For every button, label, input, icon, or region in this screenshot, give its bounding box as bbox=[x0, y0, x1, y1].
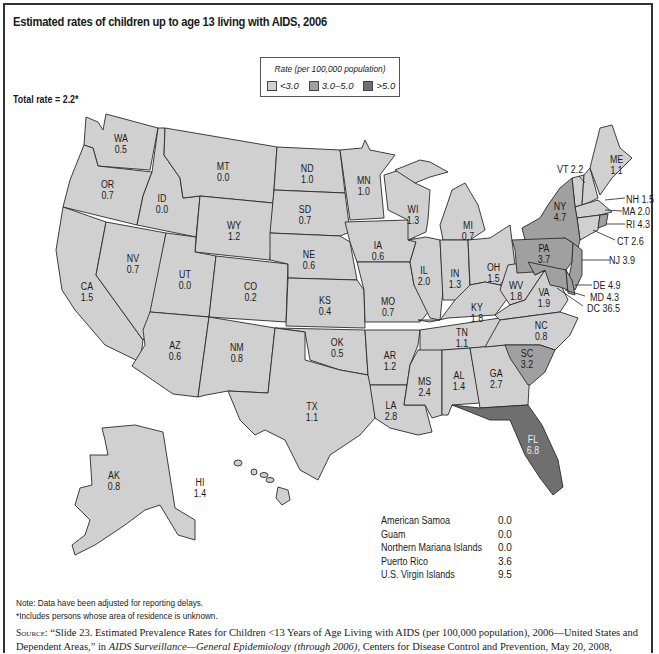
callout-ct bbox=[593, 230, 615, 240]
label-me: ME1.1 bbox=[610, 154, 623, 176]
state-hi-big bbox=[276, 487, 290, 505]
label-nh: NH 1.5 bbox=[626, 194, 654, 205]
label-fl: FL6.8 bbox=[527, 434, 539, 456]
label-ny: NY4.7 bbox=[554, 201, 566, 223]
label-mt: MT0.0 bbox=[217, 161, 230, 183]
label-pa: PA3.7 bbox=[538, 243, 550, 265]
territory-row: U.S. Virgin Islands9.5 bbox=[381, 568, 512, 582]
label-la: LA2.8 bbox=[385, 400, 397, 422]
label-tx: TX1.1 bbox=[306, 401, 318, 423]
label-sc: SC3.2 bbox=[521, 348, 533, 370]
label-wi: WI1.3 bbox=[407, 204, 419, 226]
note-line-1: Note: Data have been adjusted for report… bbox=[16, 596, 218, 609]
label-nc: NC0.8 bbox=[535, 320, 548, 342]
state-hi-4 bbox=[266, 478, 274, 483]
source-text-2: , Centers for Disease Control and Preven… bbox=[357, 641, 612, 652]
notes: Note: Data have been adjusted for report… bbox=[16, 596, 218, 622]
state-ct bbox=[577, 215, 600, 240]
label-az: AZ0.6 bbox=[169, 340, 181, 362]
note-line-2: *Includes persons whose area of residenc… bbox=[16, 609, 218, 622]
label-ar: AR1.2 bbox=[384, 350, 396, 372]
label-wv: WV1.8 bbox=[509, 280, 523, 302]
label-wy: WY1.2 bbox=[227, 220, 241, 242]
label-ok: OK0.5 bbox=[331, 337, 344, 359]
label-wa: WA0.5 bbox=[114, 133, 128, 155]
label-tn: TN1.1 bbox=[456, 327, 468, 349]
label-dc: DC 36.5 bbox=[587, 303, 620, 314]
state-hi-2 bbox=[251, 469, 257, 475]
state-fl bbox=[452, 405, 563, 495]
label-il: IL2.0 bbox=[418, 265, 430, 287]
callout-nh bbox=[605, 198, 625, 200]
label-mi: MI0.7 bbox=[462, 220, 474, 242]
label-ne: NE0.6 bbox=[303, 249, 315, 271]
label-mn: MN1.0 bbox=[357, 175, 371, 197]
territory-row: Puerto Rico3.6 bbox=[381, 555, 512, 569]
label-ia: IA0.6 bbox=[372, 240, 384, 262]
label-ma: MA 2.0 bbox=[622, 206, 650, 217]
label-md: MD 4.3 bbox=[590, 292, 619, 303]
label-hi: HI1.4 bbox=[194, 477, 206, 499]
label-sd: SD0.7 bbox=[299, 204, 311, 226]
label-ky: KY1.8 bbox=[471, 302, 483, 324]
label-de: DE 4.9 bbox=[593, 280, 621, 291]
territories-table: American Samoa0.0 Guam0.0 Northern Maria… bbox=[381, 514, 512, 582]
territory-row: Guam0.0 bbox=[381, 528, 512, 542]
state-hi-1 bbox=[234, 460, 242, 466]
label-ca: CA1.5 bbox=[81, 281, 93, 303]
state-hi-3 bbox=[260, 473, 268, 478]
territory-row: American Samoa0.0 bbox=[381, 514, 512, 528]
label-mo: MO0.7 bbox=[381, 296, 395, 318]
label-or: OR0.7 bbox=[101, 179, 114, 201]
territory-row: Northern Mariana Islands0.0 bbox=[381, 541, 512, 555]
source-label: Source: bbox=[16, 628, 48, 638]
label-nd: ND1.0 bbox=[301, 163, 314, 185]
label-ks: KS0.4 bbox=[319, 295, 331, 317]
label-ct: CT 2.6 bbox=[617, 236, 644, 247]
label-al: AL1.4 bbox=[453, 370, 465, 392]
source-citation: Source: “Slide 23. Estimated Prevalence … bbox=[16, 626, 656, 654]
source-title: AIDS Surveillance—General Epidemiology (… bbox=[109, 641, 358, 652]
state-ri bbox=[598, 214, 608, 228]
label-ga: GA2.7 bbox=[490, 368, 503, 390]
label-nj: NJ 3.9 bbox=[609, 255, 635, 266]
label-nv: NV0.7 bbox=[127, 253, 139, 275]
label-oh: OH1.5 bbox=[487, 262, 500, 284]
label-ak: AK0.8 bbox=[108, 470, 120, 492]
label-co: CO0.2 bbox=[244, 281, 257, 303]
label-ut: UT0.0 bbox=[179, 269, 191, 291]
label-va: VA1.9 bbox=[538, 287, 550, 309]
label-in: IN1.3 bbox=[449, 268, 461, 290]
label-id: ID0.0 bbox=[156, 193, 168, 215]
state-ny bbox=[522, 178, 580, 248]
label-ms: MS2.4 bbox=[418, 376, 431, 398]
label-vt: VT 2.2 bbox=[557, 164, 583, 175]
label-nm: NM0.8 bbox=[230, 342, 244, 364]
state-ak bbox=[72, 425, 195, 555]
label-ri: RI 4.3 bbox=[626, 219, 650, 230]
